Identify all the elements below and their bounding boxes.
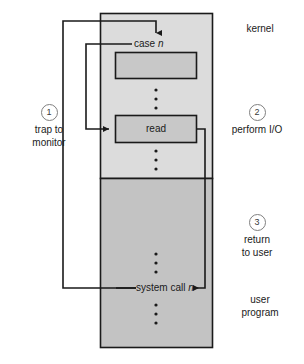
step-3-return-to-user: 3 return to user xyxy=(214,214,300,259)
kernel-region-label: kernel xyxy=(220,23,300,36)
step-1-line2: monitor xyxy=(6,137,92,150)
system-call-n-label: system call n xyxy=(136,282,194,293)
step-1-number: 1 xyxy=(41,104,58,121)
step-2-line1: perform I/O xyxy=(214,124,300,137)
step-2-number: 2 xyxy=(249,104,266,121)
user-region-label: user program xyxy=(220,294,300,319)
step-3-line2: to user xyxy=(214,247,300,260)
step-3-number: 3 xyxy=(249,214,266,231)
step-3-line1: return xyxy=(214,234,300,247)
diagram-canvas: kernel user program case n read system c… xyxy=(0,0,304,364)
kernel-empty-routine-box xyxy=(116,53,197,79)
case-n-label: case n xyxy=(134,38,163,49)
read-box-label: read xyxy=(116,123,196,134)
step-1-trap-to-monitor: 1 trap to monitor xyxy=(6,104,92,149)
step-2-perform-io: 2 perform I/O xyxy=(214,104,300,137)
step-1-line1: trap to xyxy=(6,124,92,137)
